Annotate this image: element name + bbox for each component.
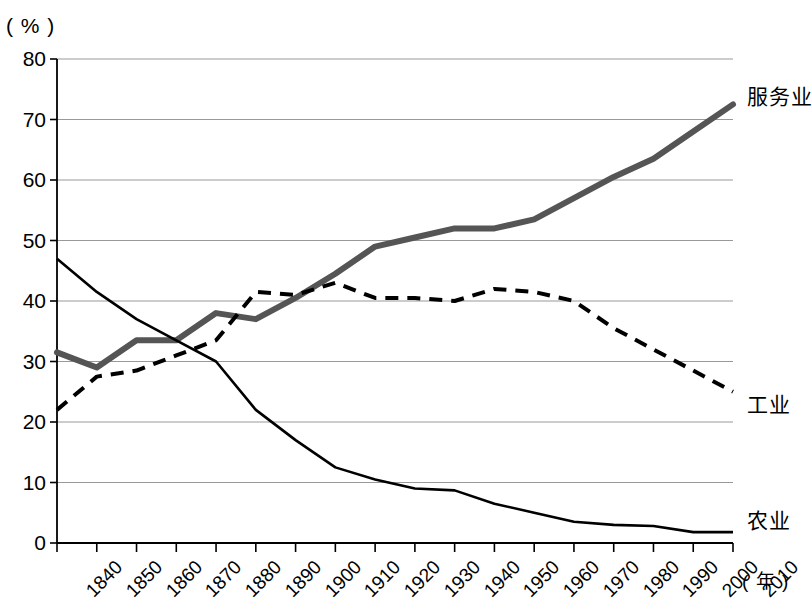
chart-container: ( % ) ( 年 ) 01020304050607080 1840185018… (0, 0, 812, 598)
series-label-industry: 工业 (747, 388, 791, 418)
series-label-services: 服务业 (747, 80, 812, 110)
plot-area (0, 0, 812, 598)
series-line-services (57, 104, 733, 367)
gridlines (57, 59, 733, 543)
series-label-agriculture: 农业 (747, 504, 791, 534)
x-axis-tick-marks (57, 543, 733, 552)
series-line-industry (57, 283, 733, 410)
y-axis-tick-marks (50, 59, 57, 543)
